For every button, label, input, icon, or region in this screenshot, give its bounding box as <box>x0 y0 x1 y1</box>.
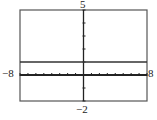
x-min-label: −8 <box>2 68 14 79</box>
y-min-label: −2 <box>76 104 88 115</box>
x-max-label: 8 <box>148 68 154 79</box>
graph-window <box>0 0 157 120</box>
y-max-label: 5 <box>80 0 86 10</box>
